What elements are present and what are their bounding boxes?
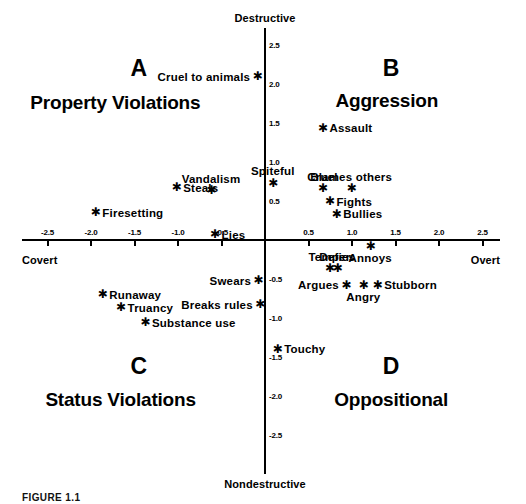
data-point-label: Lies xyxy=(222,229,246,241)
x-tick-label: 0.5 xyxy=(303,228,314,237)
data-point-label: Runaway xyxy=(109,289,161,301)
x-tick-label: 2.5 xyxy=(477,228,488,237)
data-point-marker xyxy=(254,276,263,285)
data-point-label: Bullies xyxy=(343,208,382,220)
quadrant-title-c: Status Violations xyxy=(45,389,195,411)
x-tick-label: 1.0 xyxy=(347,228,358,237)
data-point-marker xyxy=(116,303,125,312)
data-point-marker xyxy=(366,242,375,251)
data-point-marker xyxy=(325,264,334,273)
quadrant-title-a: Property Violations xyxy=(30,92,200,114)
x-tick-label: 2.0 xyxy=(434,228,445,237)
data-point-label: Truancy xyxy=(128,302,174,314)
x-tick-label: -1.0 xyxy=(172,228,185,237)
x-tick-mark xyxy=(134,241,136,246)
axis-caption-top: Destructive xyxy=(234,12,295,24)
data-point-label: Cruel to animals xyxy=(157,71,250,83)
x-tick-mark xyxy=(395,241,397,246)
quadrant-letter-d: D xyxy=(383,353,400,380)
y-tick-label: -0.5 xyxy=(269,275,282,284)
quadrant-letter-b: B xyxy=(383,55,400,82)
data-point-label: Spiteful xyxy=(251,165,295,177)
data-point-marker xyxy=(318,124,327,133)
figure-caption: FIGURE 1.1 xyxy=(22,492,80,503)
x-tick-mark xyxy=(47,241,49,246)
data-point-marker xyxy=(333,264,342,273)
data-point-label: Argues xyxy=(298,279,339,291)
axis-caption-left: Covert xyxy=(22,254,57,266)
data-point-marker xyxy=(347,184,356,193)
quadrant-letter-a: A xyxy=(131,55,148,82)
data-point-marker xyxy=(325,197,334,206)
data-point-label: Swears xyxy=(210,275,251,287)
data-point-marker xyxy=(172,183,181,192)
axis-caption-bottom: Nondestructive xyxy=(224,478,305,490)
x-tick-label: -1.5 xyxy=(128,228,141,237)
x-tick-mark xyxy=(308,241,310,246)
data-point-label: Touchy xyxy=(284,343,325,355)
data-point-label: Assault xyxy=(329,122,372,134)
y-tick-label: -2.0 xyxy=(269,392,282,401)
x-tick-mark xyxy=(438,241,440,246)
y-tick-label: 2.5 xyxy=(269,41,280,50)
data-point-marker xyxy=(341,281,350,290)
quadrant-title-b: Aggression xyxy=(336,90,439,112)
data-point-label: Vandalism xyxy=(182,173,241,185)
data-point-label: Stubborn xyxy=(384,279,437,291)
quadrant-title-d: Oppositional xyxy=(334,389,448,411)
x-tick-mark xyxy=(351,241,353,246)
axis-caption-right: Overt xyxy=(471,254,500,266)
data-point-label: Firesetting xyxy=(102,207,163,219)
data-point-label: Defies xyxy=(319,251,355,263)
data-point-marker xyxy=(373,281,382,290)
y-tick-label: 0.5 xyxy=(269,197,280,206)
data-point-marker xyxy=(91,208,100,217)
y-tick-label: 2.0 xyxy=(269,80,280,89)
data-point-marker xyxy=(255,300,264,309)
y-axis-line xyxy=(264,28,266,474)
scatter-plot-figure: -2.5-2.0-1.5-1.0-0.50.51.01.52.02.5 2.52… xyxy=(0,0,526,504)
data-point-label: Fights xyxy=(336,196,372,208)
y-tick-label: -1.5 xyxy=(269,353,282,362)
data-point-marker xyxy=(318,184,327,193)
data-point-marker xyxy=(268,179,277,188)
data-point-marker xyxy=(359,281,368,290)
x-tick-label: 1.5 xyxy=(390,228,401,237)
x-tick-mark xyxy=(221,241,223,246)
x-tick-mark xyxy=(482,241,484,246)
data-point-label: Breaks rules xyxy=(181,299,252,311)
data-point-label: Angry xyxy=(346,291,380,303)
y-tick-label: -1.0 xyxy=(269,314,282,323)
y-tick-label: -2.5 xyxy=(269,431,282,440)
x-axis-line xyxy=(22,239,500,241)
x-tick-label: -2.5 xyxy=(41,228,54,237)
data-point-label: Annoys xyxy=(349,252,392,264)
data-point-label: Substance use xyxy=(152,317,236,329)
y-tick-label: 1.5 xyxy=(269,119,280,128)
x-tick-label: -2.0 xyxy=(85,228,98,237)
data-point-label: Blames others xyxy=(310,171,392,183)
data-point-marker xyxy=(253,72,262,81)
data-point-marker xyxy=(332,210,341,219)
quadrant-letter-c: C xyxy=(131,353,148,380)
data-point-marker xyxy=(140,318,149,327)
x-tick-mark xyxy=(90,241,92,246)
x-tick-mark xyxy=(177,241,179,246)
data-point-marker xyxy=(98,290,107,299)
